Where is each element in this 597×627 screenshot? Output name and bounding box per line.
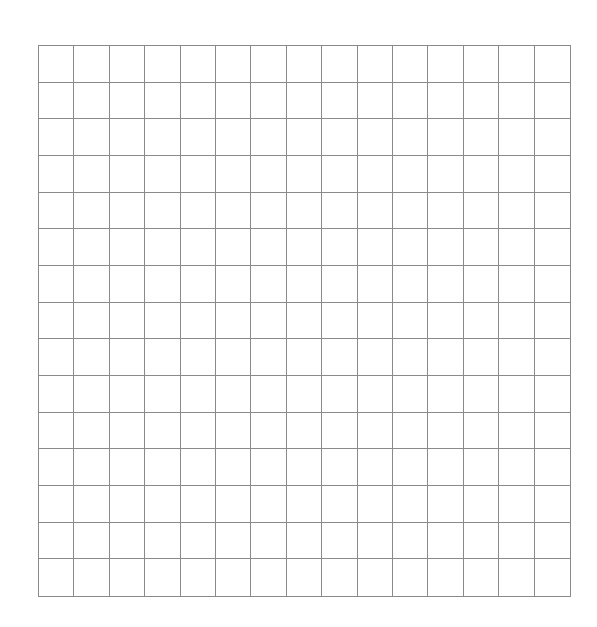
grid-cell [216, 449, 251, 486]
grid-cell [358, 559, 393, 596]
grid-cell [393, 523, 428, 560]
grid-cell [287, 193, 322, 230]
grid-cell [181, 559, 216, 596]
grid-cell [358, 449, 393, 486]
grid-cell [251, 193, 286, 230]
grid-cell [110, 303, 145, 340]
grid-cell [39, 83, 74, 120]
grid-cell [499, 413, 534, 450]
grid-cell [322, 559, 357, 596]
grid-cell [74, 303, 109, 340]
grid-cell [251, 339, 286, 376]
grid-cell [181, 46, 216, 83]
grid-cell [181, 83, 216, 120]
grid-cell [181, 193, 216, 230]
grid-cell [181, 523, 216, 560]
grid-cell [428, 303, 463, 340]
grid-cell [499, 559, 534, 596]
grid-cell [464, 83, 499, 120]
grid-cell [358, 303, 393, 340]
grid-cell [535, 559, 570, 596]
grid-cell [74, 266, 109, 303]
grid-cell [110, 449, 145, 486]
grid-cell [181, 119, 216, 156]
grid-cell [74, 46, 109, 83]
grid-cell [358, 266, 393, 303]
grid-cell [428, 46, 463, 83]
grid-cell [322, 83, 357, 120]
grid-cell [464, 486, 499, 523]
grid-cell [464, 193, 499, 230]
grid-cell [216, 83, 251, 120]
grid-cell [358, 413, 393, 450]
grid-cell [428, 229, 463, 266]
grid-cell [464, 46, 499, 83]
grid-cell [216, 413, 251, 450]
grid-cell [251, 266, 286, 303]
grid-cell [287, 266, 322, 303]
grid-cell [39, 229, 74, 266]
grid-cell [428, 376, 463, 413]
grid-cell [145, 449, 180, 486]
grid-cell [358, 193, 393, 230]
grid-cell [428, 486, 463, 523]
grid-cell [181, 156, 216, 193]
grid-cell [322, 156, 357, 193]
grid-cell [251, 46, 286, 83]
grid-cell [251, 449, 286, 486]
grid-cell [287, 449, 322, 486]
grid-cell [287, 156, 322, 193]
grid-cell [358, 229, 393, 266]
grid-cell [393, 83, 428, 120]
grid-cell [358, 119, 393, 156]
grid-cell [287, 486, 322, 523]
grid-cell [287, 303, 322, 340]
grid-cell [74, 156, 109, 193]
grid-cell [322, 486, 357, 523]
grid-cell [145, 46, 180, 83]
grid-cell [535, 303, 570, 340]
grid-cell [39, 303, 74, 340]
grid-cell [110, 559, 145, 596]
grid-cell [145, 303, 180, 340]
grid-cell [535, 83, 570, 120]
grid-cell [499, 193, 534, 230]
grid-cell [39, 413, 74, 450]
grid-cell [145, 559, 180, 596]
grid-cell [39, 339, 74, 376]
grid-cell [358, 46, 393, 83]
grid-cell [39, 486, 74, 523]
grid-cell [216, 46, 251, 83]
grid-cell [464, 266, 499, 303]
grid-cell [74, 523, 109, 560]
grid-cell [464, 413, 499, 450]
grid-cell [393, 559, 428, 596]
grid-cell [499, 156, 534, 193]
grid-cell [322, 449, 357, 486]
grid-cell [39, 523, 74, 560]
grid-cell [322, 523, 357, 560]
grid-cell [393, 413, 428, 450]
grid-cell [499, 266, 534, 303]
grid-cell [428, 83, 463, 120]
grid-cell [110, 119, 145, 156]
grid-cell [535, 119, 570, 156]
grid-cell [464, 449, 499, 486]
grid-cell [216, 376, 251, 413]
grid-cell [428, 523, 463, 560]
grid-cell [393, 229, 428, 266]
grid-cell [251, 119, 286, 156]
grid-cell [181, 303, 216, 340]
grid-cell [110, 266, 145, 303]
grid-cell [181, 266, 216, 303]
grid-cell [145, 229, 180, 266]
grid-cell [499, 523, 534, 560]
grid-cell [251, 303, 286, 340]
grid-cell [535, 376, 570, 413]
grid-cell [287, 559, 322, 596]
grid-cell [181, 229, 216, 266]
grid-cell [74, 559, 109, 596]
grid-cell [428, 449, 463, 486]
grid-cell [145, 83, 180, 120]
grid-cell [393, 156, 428, 193]
